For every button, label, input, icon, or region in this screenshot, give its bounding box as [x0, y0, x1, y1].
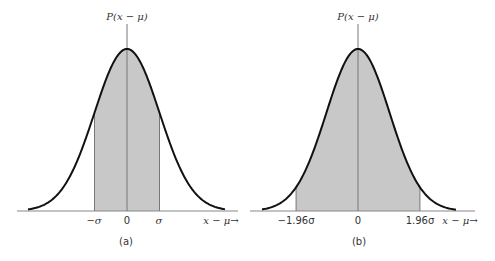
tick-label-minus-1-96-sigma: −1.96σ — [278, 215, 316, 226]
y-label-b: P(x − μ) — [336, 11, 379, 22]
tick-label-sigma: σ — [156, 215, 164, 226]
tick-label-zero-a: 0 — [124, 215, 130, 226]
x-label-b: x − μ→ — [442, 215, 478, 226]
tick-label-1-96-sigma: 1.96σ — [406, 215, 435, 226]
figure: P(x − μ) −σ 0 σ x − μ→ (a) P(x − μ) −1.9… — [0, 0, 495, 261]
tick-label-minus-sigma: −σ — [86, 215, 102, 226]
tick-label-zero-b: 0 — [355, 215, 361, 226]
panel-label-a: (a) — [119, 236, 133, 247]
panel-label-b: (b) — [352, 236, 366, 247]
panel-a: P(x − μ) −σ 0 σ x − μ→ (a) — [17, 11, 239, 247]
y-label-a: P(x − μ) — [105, 11, 148, 22]
panel-b: P(x − μ) −1.96σ 0 1.96σ x − μ→ (b) — [250, 11, 478, 247]
x-label-a: x − μ→ — [203, 215, 239, 226]
